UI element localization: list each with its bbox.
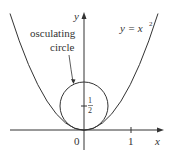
annotation-pointer (69, 55, 73, 82)
x-axis-label: x (154, 135, 160, 147)
x-axis-arrow-icon (157, 128, 164, 133)
origin-label: 0 (74, 135, 80, 147)
annotation-line2: circle (50, 41, 75, 53)
annotation-line1: osculating (30, 27, 76, 39)
curve-label-exponent: 2 (149, 20, 153, 28)
x-tick-label-1: 1 (128, 135, 134, 147)
center-label-denominator: 2 (88, 106, 92, 115)
y-axis-label: y (73, 10, 79, 22)
curve-label: y = x (119, 22, 143, 34)
y-axis-arrow-icon (82, 12, 87, 19)
center-label-numerator: 1 (88, 96, 92, 105)
osculating-circle-diagram: y x 0 1 osculating circle y = x 2 1 2 (0, 0, 170, 160)
annotation-arrowhead-icon (71, 79, 76, 84)
